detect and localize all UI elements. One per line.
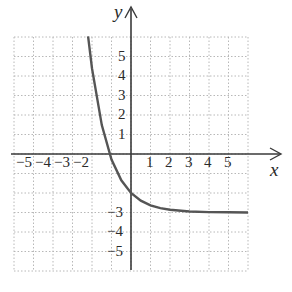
y-tick-label: 4 xyxy=(118,67,126,83)
y-tick-label: 5 xyxy=(118,48,126,64)
x-tick-label: −3 xyxy=(54,154,70,170)
y-tick-label: −3 xyxy=(107,204,123,220)
x-tick-label: 1 xyxy=(146,154,154,170)
x-tick-label: 3 xyxy=(185,154,193,170)
y-axis xyxy=(125,7,137,270)
y-tick-label: 1 xyxy=(118,126,126,142)
coordinate-plane: y x −5 −4 −3 −2 1 2 3 4 5 5 4 3 2 1 −3 −… xyxy=(0,0,292,292)
y-axis-label: y xyxy=(112,1,123,22)
y-tick-label: −4 xyxy=(107,223,123,239)
x-tick-labels: −5 −4 −3 −2 1 2 3 4 5 xyxy=(16,154,232,170)
x-tick-label: −2 xyxy=(73,154,89,170)
y-tick-label: −5 xyxy=(107,243,123,259)
x-tick-label: 5 xyxy=(224,154,232,170)
graph: y x −5 −4 −3 −2 1 2 3 4 5 5 4 3 2 1 −3 −… xyxy=(0,0,292,292)
y-tick-label: 3 xyxy=(118,87,126,103)
x-tick-label: 2 xyxy=(165,154,173,170)
x-tick-label: −4 xyxy=(35,154,51,170)
function-curve xyxy=(88,36,248,212)
x-axis-label: x xyxy=(269,159,279,180)
x-tick-label: −5 xyxy=(16,154,32,170)
x-tick-label: 4 xyxy=(204,154,212,170)
y-tick-label: 2 xyxy=(118,106,126,122)
